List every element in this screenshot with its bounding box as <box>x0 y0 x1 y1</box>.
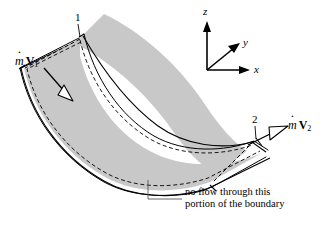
inlet-mass-flux-label: mV1 <box>15 55 38 67</box>
y-axis-label: y <box>243 37 248 48</box>
z-axis-label: z <box>203 6 207 17</box>
station-1-tick <box>78 24 80 37</box>
boundary-caption-line-1: no flow through this <box>185 186 284 198</box>
inlet-velocity-subscript: 1 <box>34 60 38 69</box>
outlet-mass-flux-label: mV2 <box>288 119 311 131</box>
outlet-velocity-subscript: 2 <box>307 124 311 133</box>
x-axis-label: x <box>254 64 259 75</box>
boundary-caption-line-2: portion of the boundary <box>185 198 284 210</box>
boundary-caption: no flow through this portion of the boun… <box>185 186 284 211</box>
x-axis-arrowhead <box>239 66 250 74</box>
inlet-mdot-symbol: m <box>15 54 24 68</box>
z-axis-arrowhead <box>203 21 211 32</box>
y-axis-line <box>207 48 234 70</box>
control-volume-figure: z y x 1 2 mV1 mV2 no flow through this p… <box>0 0 325 225</box>
station-label-2: 2 <box>252 114 258 125</box>
outlet-arrowhead <box>269 126 288 140</box>
station-label-1: 1 <box>75 12 81 23</box>
outlet-flow-arrow <box>248 126 288 145</box>
outlet-mdot-symbol: m <box>288 118 297 132</box>
station-2-tick <box>255 126 256 139</box>
